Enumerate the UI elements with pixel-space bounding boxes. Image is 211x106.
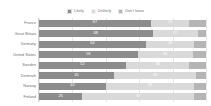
legend-swatch-unlikely <box>91 9 96 14</box>
stacked-bar[interactable]: 4549 <box>39 72 206 79</box>
bar-segment-unlikely[interactable]: 67 <box>82 93 194 100</box>
bar-row: France6723 <box>39 20 206 27</box>
bar-segment-dontknow[interactable] <box>189 20 206 27</box>
legend-item-don-t-know[interactable]: Don't know <box>118 9 144 14</box>
legend-label: Likely <box>74 10 84 14</box>
category-label: France <box>24 21 36 25</box>
legend-swatch-likely <box>67 9 72 14</box>
gridline <box>206 18 207 102</box>
segment-value-label: 33 <box>163 53 167 57</box>
stacked-bar[interactable]: 4053 <box>39 83 206 90</box>
bar-segment-likely[interactable]: 40 <box>39 83 106 90</box>
stacked-bar[interactable]: 5238 <box>39 62 206 69</box>
bar-segment-likely[interactable]: 52 <box>39 62 126 69</box>
segment-value-label: 59 <box>86 53 90 57</box>
category-label: Finland <box>24 95 36 99</box>
bar-segment-likely[interactable]: 26 <box>39 93 82 100</box>
bar-segment-likely[interactable]: 64 <box>39 41 146 48</box>
bar-segment-unlikely[interactable]: 53 <box>106 83 195 90</box>
bar-segment-dontknow[interactable] <box>198 30 206 37</box>
legend-item-unlikely[interactable]: Unlikely <box>91 9 111 14</box>
category-label: Germany <box>20 42 36 46</box>
bar-row: Sweden5238 <box>39 62 206 69</box>
bar-segment-likely[interactable]: 67 <box>39 20 151 27</box>
segment-value-label: 49 <box>153 74 157 78</box>
bar-segment-unlikely[interactable]: 33 <box>138 51 193 58</box>
stacked-bar[interactable]: 6827 <box>39 30 206 37</box>
segment-value-label: 67 <box>136 95 140 99</box>
bar-segment-likely[interactable]: 68 <box>39 30 153 37</box>
stacked-bar[interactable]: 2667 <box>39 93 206 100</box>
category-label: Sweden <box>22 63 36 67</box>
bar-segment-dontknow[interactable] <box>194 41 206 48</box>
legend-label: Unlikely <box>98 10 111 14</box>
segment-value-label: 38 <box>155 63 159 67</box>
bar-row: Denmark4549 <box>39 72 206 79</box>
stacked-bar[interactable]: 5933 <box>39 51 206 58</box>
category-label: Denmark <box>21 74 36 78</box>
bar-segment-dontknow[interactable] <box>194 83 206 90</box>
segment-value-label: 26 <box>59 95 63 99</box>
segment-value-label: 29 <box>168 42 172 46</box>
bar-segment-unlikely[interactable]: 27 <box>153 30 198 37</box>
bar-segment-dontknow[interactable] <box>196 72 206 79</box>
bar-segment-dontknow[interactable] <box>194 93 206 100</box>
bar-segment-unlikely[interactable]: 29 <box>146 41 194 48</box>
chart-legend: LikelyUnlikelyDon't know <box>0 6 211 17</box>
segment-value-label: 45 <box>74 74 78 78</box>
bar-segment-unlikely[interactable]: 49 <box>114 72 196 79</box>
bar-row: Finland2667 <box>39 93 206 100</box>
segment-value-label: 23 <box>168 21 172 25</box>
category-label: United States <box>13 53 36 57</box>
bar-row: Germany6429 <box>39 41 206 48</box>
bar-segment-likely[interactable]: 59 <box>39 51 138 58</box>
segment-value-label: 53 <box>148 84 152 88</box>
plot-area: France6723Great Britain6827Germany6429Un… <box>38 18 206 102</box>
bar-row: United States5933 <box>39 51 206 58</box>
bar-segment-unlikely[interactable]: 38 <box>126 62 189 69</box>
category-label: Great Britain <box>15 32 36 36</box>
bar-rows: France6723Great Britain6827Germany6429Un… <box>39 18 206 102</box>
segment-value-label: 52 <box>80 63 84 67</box>
bar-segment-dontknow[interactable] <box>193 51 206 58</box>
legend-swatch-dontknow <box>118 9 123 14</box>
segment-value-label: 40 <box>70 84 74 88</box>
category-label: Norway <box>23 84 36 88</box>
segment-value-label: 68 <box>94 32 98 36</box>
stacked-bar[interactable]: 6429 <box>39 41 206 48</box>
segment-value-label: 27 <box>173 32 177 36</box>
bar-row: Great Britain6827 <box>39 30 206 37</box>
segment-value-label: 64 <box>90 42 94 46</box>
legend-item-likely[interactable]: Likely <box>67 9 84 14</box>
bar-segment-dontknow[interactable] <box>189 62 206 69</box>
bar-row: Norway4053 <box>39 83 206 90</box>
segment-value-label: 67 <box>93 21 97 25</box>
legend-label: Don't know <box>125 10 144 14</box>
bar-segment-unlikely[interactable]: 23 <box>151 20 189 27</box>
stacked-bar-chart: LikelyUnlikelyDon't know France6723Great… <box>0 0 211 106</box>
stacked-bar[interactable]: 6723 <box>39 20 206 27</box>
bar-segment-likely[interactable]: 45 <box>39 72 114 79</box>
